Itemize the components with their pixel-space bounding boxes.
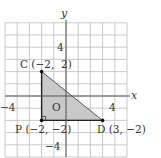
tick-x-neg4: −4 — [0, 101, 16, 113]
point-p-label: P (−2, −2) — [15, 123, 71, 135]
y-axis-label: y — [60, 7, 68, 20]
point-c — [40, 70, 44, 74]
tick-x-pos4: 4 — [109, 101, 116, 113]
origin-label: O — [52, 101, 61, 113]
point-d — [101, 119, 105, 123]
tick-y-neg4: −4 — [45, 140, 61, 152]
point-c-label: C (−2, 2) — [20, 58, 72, 70]
point-p — [40, 119, 44, 123]
coordinate-diagram: x y O −4 4 4 −4 C (−2, 2) P (−2, −2) D (… — [0, 0, 161, 158]
x-axis-label: x — [131, 89, 138, 102]
tick-y-pos4: 4 — [57, 41, 64, 53]
point-d-label: D (3, −2) — [97, 123, 146, 135]
